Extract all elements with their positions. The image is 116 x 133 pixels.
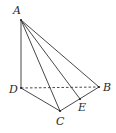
label-D: D (8, 83, 18, 96)
edge-AC (21, 20, 60, 111)
point-E (79, 98, 81, 100)
point-C (59, 110, 61, 112)
label-C: C (56, 115, 65, 128)
point-A (20, 19, 22, 21)
label-A: A (12, 4, 21, 17)
label-B: B (102, 81, 111, 94)
label-E: E (77, 101, 86, 114)
edges (21, 20, 99, 111)
point-B (98, 86, 100, 88)
pyramid-diagram: A D C B E (0, 0, 116, 133)
edge-DB-hidden (21, 87, 99, 88)
edge-DC (21, 88, 60, 111)
edge-AB (21, 20, 99, 87)
point-D (20, 87, 22, 89)
vertices (20, 19, 100, 112)
